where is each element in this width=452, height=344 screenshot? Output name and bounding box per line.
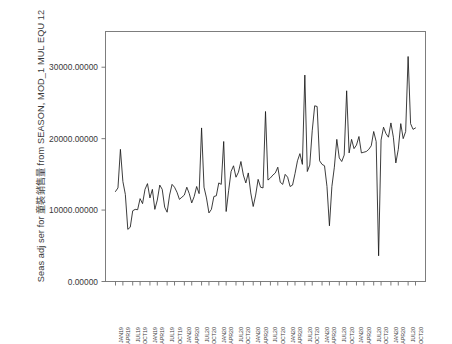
x-tick-label: JUL19 (169, 327, 175, 342)
y-axis-ticks (102, 67, 106, 281)
x-tick-label: JAN20 (393, 327, 399, 343)
x-tick-label: JUL20 (376, 327, 382, 342)
x-tick-label: OCT20 (211, 327, 217, 344)
x-tick-label: APR20 (366, 327, 372, 344)
x-tick-label: APR20 (194, 327, 200, 344)
x-tick-label: JUL20 (341, 327, 347, 342)
x-tick-label: OCT20 (314, 327, 320, 344)
x-tick-label: JAN20 (358, 327, 364, 343)
y-tick-label: 30000.00000 (8, 62, 98, 72)
x-tick-label: APR19 (125, 327, 131, 344)
x-tick-label: JAN20 (290, 327, 296, 343)
x-tick-label: JAN20 (186, 327, 192, 343)
x-tick-label: JAN20 (255, 327, 261, 343)
x-axis-tick-labels: JAN19APR19JUL19OCT19JAN19APR19JUL19OCT19… (0, 283, 452, 330)
x-tick-label: APR20 (263, 327, 269, 344)
x-tick-label: APR20 (228, 327, 234, 344)
x-tick-label: JAN20 (324, 327, 330, 343)
y-tick-label: 20000.00000 (8, 134, 98, 144)
x-tick-label: OCT20 (418, 327, 424, 344)
x-tick-label: JUL20 (307, 327, 313, 342)
x-tick-label: JUL20 (204, 327, 210, 342)
x-tick-label: APR20 (400, 327, 406, 344)
x-tick-label: APR19 (159, 327, 165, 344)
x-tick-label: OCT19 (142, 327, 148, 344)
y-tick-label: 10000.00000 (8, 205, 98, 215)
x-tick-label: JUL20 (410, 327, 416, 342)
x-tick-label: JUL20 (238, 327, 244, 342)
series-line-seas-adj (116, 57, 416, 256)
x-tick-label: JAN20 (221, 327, 227, 343)
x-tick-label: JUL19 (135, 327, 141, 342)
x-tick-label: APR20 (331, 327, 337, 344)
x-tick-label: APR20 (297, 327, 303, 344)
x-tick-label: JAN19 (118, 327, 124, 343)
x-tick-label: JAN19 (152, 327, 158, 343)
plot-frame (106, 32, 426, 282)
x-tick-label: JUL20 (272, 327, 278, 342)
x-tick-label: OCT20 (383, 327, 389, 344)
y-axis-tick-labels: 0.0000010000.0000020000.0000030000.00000 (8, 31, 98, 281)
x-tick-label: OCT19 (177, 327, 183, 344)
x-tick-label: OCT20 (280, 327, 286, 344)
x-tick-label: OCT20 (245, 327, 251, 344)
x-tick-label: OCT20 (349, 327, 355, 344)
